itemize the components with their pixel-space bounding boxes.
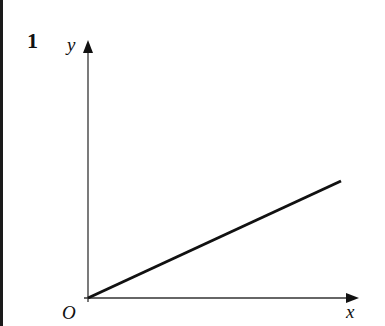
origin-label: O (62, 303, 76, 322)
graph-line (88, 181, 341, 298)
y-axis-arrow-icon (83, 40, 93, 53)
x-axis-label: x (346, 302, 354, 321)
y-axis-label: y (67, 35, 75, 54)
graph-diagram (0, 0, 385, 326)
